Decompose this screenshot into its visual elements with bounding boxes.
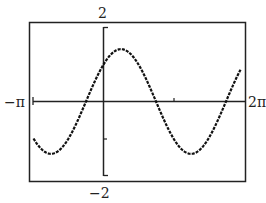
y-min-label: −2 — [89, 186, 110, 200]
graph-canvas — [0, 0, 266, 203]
y-max-label: 2 — [98, 6, 107, 20]
x-min-label: −π — [4, 95, 25, 109]
x-max-label: 2π — [248, 95, 266, 109]
